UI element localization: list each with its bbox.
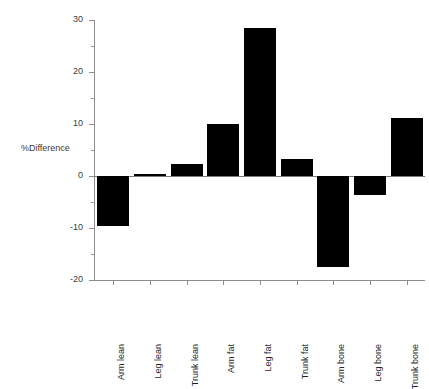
x-tick-label-slot: Leg lean bbox=[154, 288, 155, 344]
y-tick-minor bbox=[91, 150, 94, 151]
y-tick-label: 30 bbox=[43, 15, 83, 24]
x-tick-label: Trunk fat bbox=[301, 344, 310, 379]
x-tick-label: Arm fat bbox=[227, 344, 236, 373]
y-tick-label: -20 bbox=[43, 275, 83, 284]
bar bbox=[207, 124, 239, 176]
bar bbox=[281, 159, 313, 176]
x-tick bbox=[333, 281, 334, 285]
y-tick-minor bbox=[91, 254, 94, 255]
x-tick-label-slot: Trunk bone bbox=[411, 288, 412, 344]
y-axis-spine bbox=[94, 20, 95, 281]
y-tick-10 bbox=[89, 124, 94, 125]
y-tick-minor bbox=[91, 98, 94, 99]
y-tick-minor bbox=[91, 46, 94, 47]
y-tick-minor bbox=[91, 202, 94, 203]
y-tick-label: 20 bbox=[43, 67, 83, 76]
x-tick-label: Leg lean bbox=[154, 344, 163, 379]
x-tick-label-slot: Leg bone bbox=[374, 288, 375, 344]
y-tick-label: -10 bbox=[43, 223, 83, 232]
bar bbox=[354, 176, 386, 195]
bar bbox=[171, 164, 203, 176]
x-tick bbox=[187, 281, 188, 285]
x-tick bbox=[150, 281, 151, 285]
x-tick bbox=[297, 281, 298, 285]
bar bbox=[134, 174, 166, 176]
bar bbox=[244, 28, 276, 176]
y-tick-label: 10 bbox=[43, 119, 83, 128]
x-tick-label: Arm bone bbox=[337, 344, 346, 383]
y-tick-neg20 bbox=[89, 280, 94, 281]
y-axis-label: %Difference bbox=[21, 142, 70, 154]
x-tick bbox=[260, 281, 261, 285]
x-tick-label: Leg fat bbox=[264, 344, 273, 372]
x-tick-label: Trunk lean bbox=[191, 344, 200, 386]
x-tick-label: Trunk bone bbox=[411, 344, 420, 389]
bar bbox=[317, 176, 349, 267]
x-tick-label-slot: Arm lean bbox=[117, 288, 118, 344]
x-tick-label-slot: Arm fat bbox=[227, 288, 228, 344]
x-tick bbox=[370, 281, 371, 285]
x-tick-label-slot: Trunk lean bbox=[191, 288, 192, 344]
y-tick-0 bbox=[89, 176, 94, 177]
x-tick-label-slot: Arm bone bbox=[337, 288, 338, 344]
bar bbox=[97, 176, 129, 226]
x-tick-label: Arm lean bbox=[117, 344, 126, 380]
x-tick-label: Leg bone bbox=[374, 344, 383, 382]
x-tick-label-slot: Leg fat bbox=[264, 288, 265, 344]
bar bbox=[391, 118, 423, 176]
y-tick-neg10 bbox=[89, 228, 94, 229]
y-tick-30 bbox=[89, 20, 94, 21]
x-tick bbox=[407, 281, 408, 285]
x-tick bbox=[223, 281, 224, 285]
x-tick-label-slot: Trunk fat bbox=[301, 288, 302, 344]
y-tick-20 bbox=[89, 72, 94, 73]
y-tick-label: 0 bbox=[43, 171, 83, 180]
x-tick bbox=[113, 281, 114, 285]
